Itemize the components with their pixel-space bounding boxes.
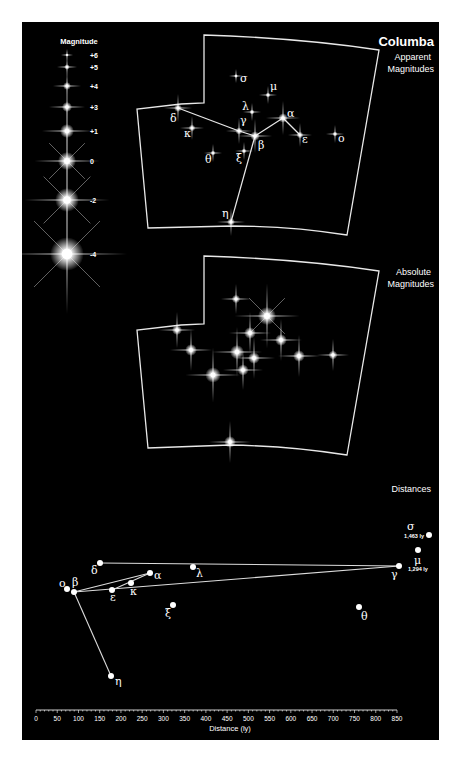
- distance-point-label: β: [72, 576, 78, 589]
- x-tick-label: 150: [94, 715, 105, 722]
- x-tick-label: 800: [370, 715, 381, 722]
- constellation-diagram: Columba Apparent Magnitudes Absolute Mag…: [0, 0, 464, 763]
- star-label: δ: [170, 112, 177, 125]
- x-tick-label: 300: [158, 715, 169, 722]
- legend-label: -2: [90, 197, 96, 204]
- distance-point-label: ξ: [165, 607, 171, 620]
- apparent-label-line2: Magnitudes: [387, 64, 434, 74]
- distance-point-label: η: [115, 675, 122, 688]
- distance-point: [71, 589, 77, 595]
- star-label: α: [287, 107, 295, 120]
- distance-points: δλακεβοξηγμσθ: [59, 520, 432, 688]
- x-tick-label: 700: [328, 715, 339, 722]
- magnitude-legend: +6+5+4+3+10-2-4: [7, 49, 127, 314]
- star-icon: [159, 312, 195, 348]
- x-tick-label: 350: [179, 715, 190, 722]
- x-tick-label: 450: [222, 715, 233, 722]
- legend-label: +6: [90, 52, 98, 59]
- x-tick-label: 650: [307, 715, 318, 722]
- apparent-stars: σμλαδκγβεοθξη: [164, 69, 345, 236]
- star-icon: [209, 421, 251, 463]
- distance-point: [415, 547, 421, 553]
- x-tick-label: 400: [200, 715, 211, 722]
- star-label: θ: [205, 153, 212, 166]
- distance-axis: 0501001502002503003504004505005506006507…: [34, 710, 403, 722]
- x-tick-label: 600: [285, 715, 296, 722]
- star-label: ξ: [236, 152, 242, 165]
- x-tick-label: 250: [137, 715, 148, 722]
- legend-label: 0: [90, 158, 94, 165]
- distance-point: [426, 532, 432, 538]
- star-icon: [170, 329, 212, 371]
- star-label: λ: [242, 100, 249, 113]
- star-label: η: [222, 207, 229, 220]
- legend-title: Magnitude: [60, 37, 98, 46]
- x-tick-label: 750: [349, 715, 360, 722]
- distance-point: [147, 570, 153, 576]
- absolute-stars: [159, 284, 349, 464]
- distance-point-label: λ: [196, 567, 203, 580]
- legend-star-icon: [7, 194, 127, 314]
- star-label: σ: [240, 72, 248, 85]
- distance-point-label: ε: [110, 591, 116, 604]
- distance-stick-figure: [74, 563, 399, 676]
- apparent-label-line1: Apparent: [394, 52, 431, 62]
- x-axis-label: Distance (ly): [209, 724, 251, 733]
- star-icon: [235, 284, 300, 349]
- star-icon: [317, 339, 349, 371]
- star-label: ο: [338, 132, 345, 145]
- star-label: ε: [302, 133, 308, 146]
- distance-point-label: κ: [130, 585, 137, 598]
- star-icon: [164, 94, 192, 122]
- star-label: β: [258, 139, 264, 152]
- distance-point-label: α: [154, 569, 162, 582]
- distance-point-label: θ: [361, 610, 368, 623]
- sigma-distance-annotation: 1,463 ly: [404, 533, 425, 539]
- distance-point-label: σ: [407, 520, 415, 533]
- x-tick-label: 200: [116, 715, 127, 722]
- x-tick-label: 550: [264, 715, 275, 722]
- star-label: μ: [270, 80, 277, 93]
- x-tick-label: 850: [392, 715, 403, 722]
- legend-label: -4: [90, 251, 96, 258]
- absolute-label-line2: Magnitudes: [387, 279, 434, 289]
- star-icon: [226, 118, 252, 144]
- distance-point: [108, 673, 114, 679]
- distance-point-label: δ: [91, 564, 98, 577]
- absolute-label-line1: Absolute: [396, 267, 431, 277]
- x-tick-label: 100: [73, 715, 84, 722]
- distance-point-label: ο: [59, 577, 66, 590]
- star-label: κ: [184, 127, 191, 140]
- x-tick-label: 50: [54, 715, 62, 722]
- diagram-title: Columba: [378, 34, 434, 49]
- star-icon: [221, 284, 251, 314]
- legend-label: +3: [90, 104, 98, 111]
- legend-label: +5: [90, 64, 98, 71]
- legend-label: +1: [90, 128, 98, 135]
- legend-label: +4: [90, 83, 98, 90]
- distances-label: Distances: [391, 484, 431, 494]
- distance-point-label: γ: [391, 568, 398, 581]
- x-tick-label: 0: [34, 715, 38, 722]
- star-label: γ: [240, 114, 247, 127]
- x-tick-label: 500: [243, 715, 254, 722]
- distance-point: [97, 560, 103, 566]
- mu-distance-annotation: 1,294 ly: [408, 566, 429, 572]
